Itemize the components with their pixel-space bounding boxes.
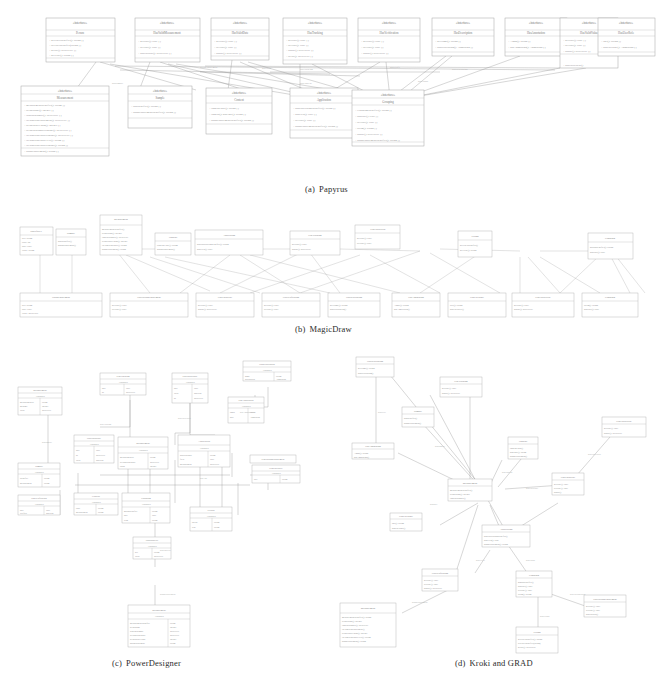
svg-text:Person: Person [208, 509, 216, 512]
svg-text:Measurement: Measurement [57, 96, 73, 100]
uml-class-box: ApplicationhasPublicationIdentifier(): S… [195, 230, 263, 255]
svg-text:HasTracking: HasTracking [307, 31, 323, 35]
panel-powerdesigner: MeasurementAttributesmeasurementIdString… [0, 355, 340, 655]
svg-text:HasTracking: HasTracking [308, 234, 322, 237]
uml-class-box: HasDescriptiongetName(): StringhasDescri… [328, 293, 380, 317]
svg-text:ByService: ByService [150, 461, 159, 463]
uml-class-box: ApplicationhasPublicationIdentifier()has… [482, 525, 530, 547]
svg-text:+ hasBy(): ByService {}: + hasBy(): ByService {} [355, 133, 383, 136]
svg-text:measurementIdentifier: measurementIdentifier [130, 622, 150, 624]
caption-label-c: (c) [112, 658, 122, 668]
svg-text:Attributes: Attributes [154, 615, 163, 617]
svg-text:«interface»: «interface» [58, 89, 73, 93]
uml-class-box: HasAnnotationAnnot(): StringhasAnnotatio… [392, 293, 440, 317]
uml-class-box: MeasurementAttributesmeasurementIdString… [118, 437, 168, 469]
svg-text:HasAnnotation: HasAnnotation [408, 296, 424, 299]
svg-text:«interface»: «interface» [308, 21, 323, 25]
svg-text:«interface»: «interface» [582, 21, 597, 25]
svg-text:String: String [98, 507, 104, 509]
svg-text:Person: Person [471, 235, 479, 238]
svg-text:+ hasMeasurementIdentifier():: + hasMeasurementIdentifier(): String {} [355, 139, 401, 142]
uml-class-box: PersongetUserIdentifier(): StringsetUser… [516, 627, 558, 653]
svg-text:+ hasBy(): ByService {}: + hasBy(): ByService {} [361, 52, 389, 55]
uml-class-box: GroupinggroupIdentifier(): StringhasDate… [588, 233, 633, 259]
svg-text:«interface»: «interface» [317, 91, 332, 95]
svg-text:+ setDate(): Date {}: + setDate(): Date {} [293, 119, 316, 122]
uml-class-box: HasValidDategetDate(): DatesetDate(): Da… [552, 473, 584, 495]
svg-text:+ setBy(): ByService {}: + setBy(): ByService {} [286, 55, 314, 58]
uml-class-box: MeasurementAttributesmeasurementIdString… [18, 387, 62, 415]
svg-text:groupIdentifier: groupIdentifier [124, 510, 138, 512]
svg-text:hasDescription(): hasDescription() [330, 308, 346, 311]
svg-text:measurement: measurement [180, 463, 192, 465]
svg-text:+ setDate(): Date {}: + setDate(): Date {} [138, 46, 161, 49]
svg-text:Integer: Integer [150, 465, 156, 467]
svg-text:HasValidDate: HasValidDate [232, 31, 249, 35]
svg-text:Measurement: Measurement [114, 218, 128, 221]
svg-text:String: String [152, 510, 158, 512]
svg-text:+ hasValidBy(): ByService {}: + hasValidBy(): ByService {} [138, 52, 172, 55]
svg-text:Content: Content [234, 98, 244, 102]
svg-text:ByService: ByService [126, 391, 135, 393]
svg-text:Attributes: Attributes [271, 472, 280, 474]
uml-class-box: «interface»Measurement+ measurementIdent… [21, 86, 109, 156]
svg-text:Attributes: Attributes [35, 395, 44, 397]
svg-text:hasSample: hasSample [435, 445, 445, 447]
uml-class-box: HasAnnotationAnnot(): StringhasAnnotatio… [352, 443, 394, 459]
svg-text:+ hasField(): Date {}: + hasField(): Date {} [293, 113, 317, 116]
papyrus-bottom-row: «interface»Measurement+ measurementIdent… [21, 86, 424, 156]
svg-text:hasMeasurement(): hasMeasurement() [58, 244, 76, 247]
svg-text:+ role(): String {}: + role(): String {} [601, 40, 622, 43]
svg-text:+ hasMeasurementIdentifier():: + hasMeasurementIdentifier(): String {} [293, 125, 339, 128]
svg-text:groupIdentifier(): String: groupIdentifier(): String [590, 246, 614, 249]
svg-text:getType(): String: getType(): String [460, 249, 477, 252]
papyrus-top-row: «interface»Person+ getUserIdentifier(): … [46, 18, 655, 68]
svg-text:String: String [152, 519, 158, 521]
svg-text:Attributes: Attributes [241, 405, 250, 407]
svg-text:HasValidDate: HasValidDate [87, 437, 102, 440]
uml-class-box: SamplehasIdentifier()hasMeasurement() [56, 229, 86, 255]
svg-text:«interface»: «interface» [619, 21, 634, 25]
uml-class-box: HasTrackinggetDate(): DatehasBy(): BySer… [440, 377, 482, 397]
svg-text:+ isLargestMeasureText(): Stri: + isLargestMeasureText(): String {} [24, 139, 65, 142]
uml-class-box: HasValidDateAttributesdateDatebyByServic… [74, 435, 114, 463]
uml-class-box: HasValidMeasurementgetDate(): DatesetDat… [584, 595, 626, 617]
svg-text:getUserIdentifier(): getUserIdentifier() [460, 244, 478, 247]
svg-text:«interface»: «interface» [160, 21, 175, 25]
svg-text:Attributes: Attributes [91, 501, 100, 503]
svg-text:getDate(): Date: getDate(): Date [198, 304, 213, 307]
svg-text:HasProperty: HasProperty [146, 539, 159, 542]
uml-class-box: ContentAttributescodeStringmeasurementSt… [74, 493, 118, 515]
panel-papyrus: «interface»Person+ getUserIdentifier(): … [0, 0, 669, 180]
svg-text:hasDate(): Date: hasDate(): Date [590, 251, 605, 254]
svg-text:+ getDate(): Date {}: + getDate(): Date {} [563, 39, 587, 42]
svg-text:Boolean: Boolean [46, 512, 54, 514]
svg-text:hasValid: hasValid [262, 67, 272, 70]
svg-text:hasApp: hasApp [200, 477, 208, 479]
panel-kroki-grad: HasDescriptiongetName(): StringhasDescri… [330, 355, 669, 655]
uml-class-box: HasMeasurementattr: Stringdate: Datevalu… [20, 293, 102, 317]
svg-text:hasRole: hasRole [430, 503, 437, 505]
svg-text:hasBy(): ByService: hasBy(): ByService [292, 248, 311, 251]
svg-text:date: date [174, 387, 178, 389]
svg-text:String: String [282, 478, 288, 480]
svg-text:ByService: ByService [170, 634, 179, 636]
uml-class-box: ApplicationAttributespublicationIdString… [178, 435, 230, 467]
svg-text:+ getDate(): Date {}: + getDate(): Date {} [214, 40, 238, 43]
svg-text:+ measurementIdentifier(): Str: + measurementIdentifier(): String {} [24, 104, 66, 107]
svg-text:userId: userId [192, 521, 198, 523]
uml-class-box: PersonAttributesuserIdStringtypeString [190, 507, 232, 531]
svg-text:+ isLargestMeasureStorage(): S: + isLargestMeasureStorage(): String {} [24, 144, 69, 147]
svg-text:+ sItem(): String {}: + sItem(): String {} [355, 127, 378, 130]
svg-text:Date: Date [96, 449, 100, 451]
powerdesigner-diagram: MeasurementAttributesmeasurementIdString… [0, 355, 340, 655]
svg-text:HasUserRole: HasUserRole [470, 296, 485, 299]
svg-text:+ hasBy(): ByService {}: + hasBy(): ByService {} [286, 49, 314, 52]
svg-text:sItem(): String: sItem(): String [584, 304, 599, 307]
svg-text:hasVerify: hasVerify [390, 66, 401, 69]
svg-text:HasValidDate: HasValidDate [561, 476, 576, 479]
svg-text:getDate(): Date: getDate(): Date [112, 304, 127, 307]
uml-class-box: «interface»Application+ hasPublicationId… [290, 88, 358, 138]
svg-text:HasValidMeasurement: HasValidMeasurement [262, 458, 285, 461]
svg-text:Application: Application [198, 440, 211, 443]
